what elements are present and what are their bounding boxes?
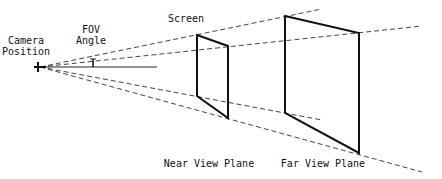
fov-angle-label-line1: FOV bbox=[82, 24, 100, 35]
fov-angle-label-line2: Angle bbox=[76, 35, 106, 46]
screen-label: Screen bbox=[168, 13, 204, 24]
camera-position-marker bbox=[34, 62, 46, 72]
ray-bottom bbox=[40, 67, 422, 172]
ray-lower-mid bbox=[40, 67, 322, 120]
camera-position-label-line1: Camera bbox=[8, 35, 44, 46]
far-view-plane-label: Far View Plane bbox=[281, 158, 365, 169]
near-view-plane-label: Near View Plane bbox=[164, 158, 254, 169]
view-frustum-diagram: Camera Position FOV Angle Screen Near Vi… bbox=[0, 0, 442, 179]
fov-angle-marker bbox=[90, 59, 96, 67]
camera-position-label-line2: Position bbox=[2, 46, 50, 57]
